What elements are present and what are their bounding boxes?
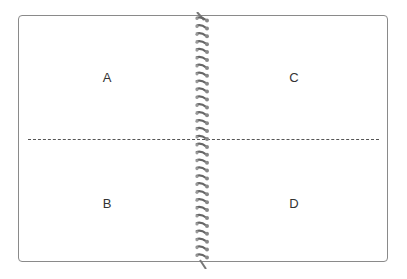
spiral-binding-icon (192, 12, 212, 269)
quadrant-label-c: C (284, 70, 304, 85)
quadrant-label-b: B (97, 196, 117, 211)
quadrant-label-a: A (97, 70, 117, 85)
quadrant-label-d: D (284, 196, 304, 211)
